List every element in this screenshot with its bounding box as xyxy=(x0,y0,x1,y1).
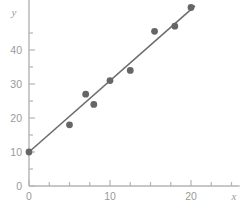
scatter-plot-figure: 01020010203040yx y x xyxy=(0,0,242,208)
x-axis-title-text: x xyxy=(231,190,237,202)
data-point[interactable] xyxy=(66,121,73,128)
y-axis-tick-label: 30 xyxy=(10,78,22,90)
data-point[interactable] xyxy=(151,28,158,35)
data-point[interactable] xyxy=(127,67,134,74)
y-axis-title-text: y xyxy=(11,6,17,18)
y-axis-tick-label: 0 xyxy=(16,180,22,192)
data-point[interactable] xyxy=(82,91,89,98)
y-axis-tick-label: 20 xyxy=(10,112,22,124)
data-point[interactable] xyxy=(188,4,195,11)
chart-canvas: 01020010203040yx xyxy=(0,0,242,208)
data-point[interactable] xyxy=(171,23,178,30)
y-axis-tick-label: 40 xyxy=(10,44,22,56)
data-point[interactable] xyxy=(90,101,97,108)
data-point[interactable] xyxy=(26,149,33,156)
x-axis-tick-label: 0 xyxy=(26,190,32,202)
data-point[interactable] xyxy=(107,77,114,84)
x-axis-tick-label: 20 xyxy=(185,190,197,202)
y-axis-tick-label: 10 xyxy=(10,146,22,158)
x-axis-tick-label: 10 xyxy=(104,190,116,202)
